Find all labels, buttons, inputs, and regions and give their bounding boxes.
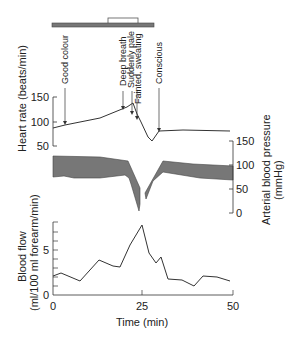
bp-tick-150: 150 bbox=[236, 135, 254, 147]
time-axis-label: Time (min) bbox=[116, 316, 168, 328]
time-tick-50: 50 bbox=[227, 300, 239, 312]
hr-axis-label: Heart rate (beats/min) bbox=[16, 45, 28, 152]
heart-rate-line bbox=[53, 103, 230, 141]
blood-flow-line bbox=[53, 225, 230, 286]
hr-tick-50: 50 bbox=[37, 140, 49, 152]
annotation-fainted-sweating: Fainted, sweating bbox=[133, 33, 143, 104]
time-tick-25: 25 bbox=[136, 300, 148, 312]
figure: Good colour Deep breath Suddenly pale Fa… bbox=[0, 0, 294, 345]
bp-axis-label-1: Arterial blood pressure bbox=[260, 114, 272, 225]
bp-band-before bbox=[53, 156, 140, 211]
annotation-good-colour: Good colour bbox=[60, 35, 70, 84]
bf-tick-5: 5 bbox=[43, 244, 49, 256]
bp-tick-0: 0 bbox=[236, 207, 242, 219]
blood-flow-panel: 5 0 0 25 50 Time (min) Blood flow (ml/10… bbox=[16, 194, 239, 328]
bf-axis-label-1: Blood flow bbox=[16, 231, 28, 282]
bf-axis-label-2: (ml/100 ml forearm/min) bbox=[28, 194, 40, 311]
tilt-bar bbox=[52, 18, 154, 27]
time-tick-0: 0 bbox=[50, 300, 56, 312]
annotations: Good colour Deep breath Suddenly pale Fa… bbox=[60, 31, 164, 132]
hr-tick-150: 150 bbox=[31, 91, 49, 103]
bp-tick-50: 50 bbox=[236, 183, 248, 195]
bp-axis-label-2: (mmHg) bbox=[272, 160, 284, 200]
hr-tick-100: 100 bbox=[31, 116, 49, 128]
bp-tick-100: 100 bbox=[236, 159, 254, 171]
annotation-conscious: Conscious bbox=[154, 41, 164, 84]
bp-band-after bbox=[145, 161, 233, 199]
bf-tick-0: 0 bbox=[43, 289, 49, 301]
